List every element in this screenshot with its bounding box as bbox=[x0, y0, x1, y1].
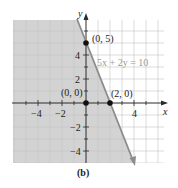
x-axis-arrow-icon bbox=[161, 101, 168, 106]
x-tick-label: 4 bbox=[132, 108, 137, 119]
point-2-0 bbox=[107, 100, 113, 106]
figure-caption: (b) bbox=[77, 167, 89, 179]
equation-label: 5x + 2y = 10 bbox=[97, 57, 148, 68]
x-tick-label: −4 bbox=[31, 108, 42, 119]
point-label-2-0: (2, 0) bbox=[111, 88, 133, 100]
inequality-graph: −4 −2 4 4 2 −2 −4 x y (0, 5) (0, 0) (2, … bbox=[0, 0, 178, 188]
y-tick-label: 4 bbox=[75, 50, 80, 61]
y-axis-arrow-icon bbox=[84, 13, 89, 20]
point-0-0 bbox=[83, 100, 89, 106]
y-tick-label: −4 bbox=[70, 146, 81, 157]
y-axis-label: y bbox=[77, 8, 83, 19]
point-0-5 bbox=[83, 40, 89, 46]
x-tick-label: −2 bbox=[55, 108, 66, 119]
y-tick-label: −2 bbox=[70, 122, 81, 133]
x-axis-label: x bbox=[162, 106, 168, 117]
point-label-0-5: (0, 5) bbox=[92, 33, 114, 45]
y-tick-label: 2 bbox=[75, 74, 80, 85]
point-label-0-0: (0, 0) bbox=[61, 87, 83, 99]
